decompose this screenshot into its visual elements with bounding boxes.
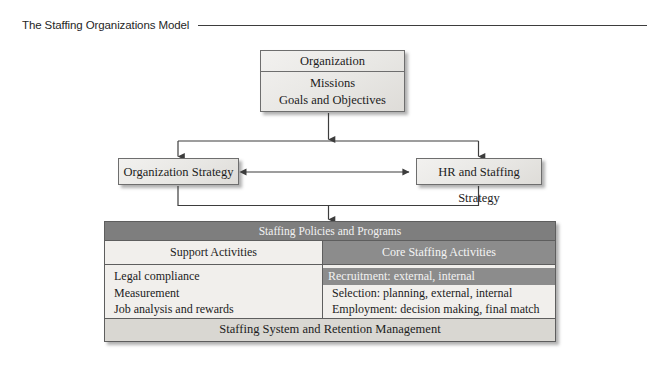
organization-box: Organization Missions Goals and Objectiv…: [260, 50, 405, 112]
support-activities-column-header: Support Activities: [105, 241, 323, 265]
core-staffing-activities-label: Core Staffing Activities: [323, 241, 555, 265]
list-item: Employment: decision making, final match: [327, 301, 555, 318]
figure-title: The Staffing Organizations Model: [0, 19, 189, 31]
core-activities-column-header: Core Staffing Activities: [323, 241, 555, 265]
staffing-system-retention-footer: Staffing System and Retention Management: [105, 319, 555, 341]
core-staffing-activities-column: Recruitment: external, internal Selectio…: [323, 265, 555, 319]
bus-line-bottom: [178, 186, 479, 206]
organization-detail: Missions Goals and Objectives: [261, 72, 404, 112]
staffing-activities-row: Legal compliance Measurement Job analysi…: [105, 265, 555, 319]
list-item: Legal compliance: [114, 268, 322, 285]
organization-title: Organization: [261, 51, 404, 72]
organization-line-missions: Missions: [261, 75, 404, 92]
core-staffing-activities-list: Recruitment: external, internal Selectio…: [323, 265, 555, 319]
staffing-column-headers-row: Support Activities Core Staffing Activit…: [105, 241, 555, 265]
support-activities-column: Legal compliance Measurement Job analysi…: [105, 265, 323, 319]
list-item: Measurement: [114, 285, 322, 302]
list-item-highlighted: Recruitment: external, internal: [323, 268, 555, 285]
list-item: Job analysis and rewards: [114, 301, 322, 318]
figure-title-rule: [198, 25, 647, 26]
list-item: Selection: planning, external, internal: [327, 285, 555, 302]
organization-strategy-box: Organization Strategy: [118, 158, 239, 185]
staffing-policies-header: Staffing Policies and Programs: [105, 222, 555, 241]
hr-staffing-strategy-box: HR and Staffing Strategy: [416, 158, 542, 185]
support-activities-list: Legal compliance Measurement Job analysi…: [105, 265, 322, 319]
staffing-table: Staffing Policies and Programs Support A…: [104, 221, 556, 342]
support-activities-label: Support Activities: [105, 241, 322, 265]
figure-header: The Staffing Organizations Model: [0, 14, 647, 36]
organization-line-goals: Goals and Objectives: [261, 92, 404, 109]
